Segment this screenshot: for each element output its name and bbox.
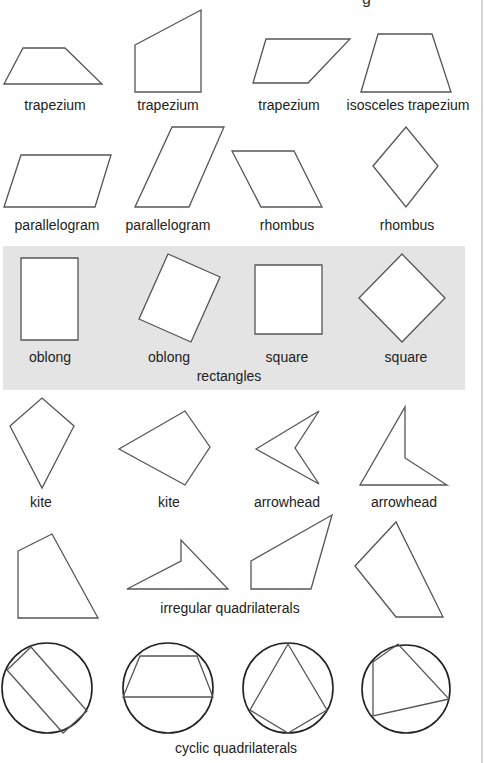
label-arrowhead-2: arrowhead xyxy=(371,494,437,510)
label-kite-2: kite xyxy=(158,494,180,510)
irregular-quad-shape-3 xyxy=(251,515,332,589)
label-trapezium-1: trapezium xyxy=(24,97,85,113)
arrowhead-shape-1 xyxy=(256,411,319,484)
label-oblong-1: oblong xyxy=(29,349,71,365)
group-label-irregular-quadrilaterals: irregular quadrilaterals xyxy=(160,600,299,616)
irregular-quad-shape-4 xyxy=(355,522,443,617)
cyclic-figure-1 xyxy=(2,643,92,733)
trapezium-shape-3 xyxy=(253,39,350,83)
parallelogram-shape-2 xyxy=(135,127,224,207)
cyclic-figure-3 xyxy=(243,643,333,733)
label-trapezium-3: trapezium xyxy=(258,97,319,113)
parallelogram-shape-1 xyxy=(4,155,111,207)
square-shape-1 xyxy=(255,265,322,334)
label-rhombus-2: rhombus xyxy=(380,217,434,233)
label-rhombus-1: rhombus xyxy=(260,217,314,233)
label-trapezium-2: trapezium xyxy=(137,97,198,113)
label-arrowhead-1: arrowhead xyxy=(254,494,320,510)
label-square-1: square xyxy=(266,349,309,365)
kite-shape-2 xyxy=(119,411,210,485)
cyclic-figure-2 xyxy=(123,643,213,733)
label-isosceles-trapezium: isosceles trapezium xyxy=(347,97,470,113)
rhombus-shape-1 xyxy=(232,151,322,207)
label-parallelogram-1: parallelogram xyxy=(15,217,100,233)
isosceles-trapezium-shape xyxy=(361,34,451,92)
square-shape-2 xyxy=(359,254,445,342)
group-label-cyclic-quadrilaterals: cyclic quadrilaterals xyxy=(175,740,297,756)
trapezium-shape-1 xyxy=(4,48,102,84)
oblong-shape-2 xyxy=(139,254,220,342)
irregular-quad-shape-1 xyxy=(18,534,98,618)
oblong-shape-1 xyxy=(21,258,78,340)
label-kite-1: kite xyxy=(30,494,52,510)
label-parallelogram-2: parallelogram xyxy=(126,217,211,233)
arrowhead-shape-2 xyxy=(360,407,447,485)
label-oblong-2: oblong xyxy=(148,349,190,365)
irregular-quad-shape-2 xyxy=(127,540,228,589)
group-label-rectangles: rectangles xyxy=(197,368,262,384)
label-square-2: square xyxy=(385,349,428,365)
kite-shape-1 xyxy=(10,398,74,488)
trapezium-shape-2 xyxy=(135,10,201,92)
rhombus-shape-2 xyxy=(373,127,438,207)
cyclic-figure-4 xyxy=(362,644,450,733)
